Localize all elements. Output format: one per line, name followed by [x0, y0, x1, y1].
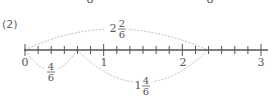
top-fragment-1: 8 [87, 0, 94, 6]
denominator: 6 [48, 72, 54, 83]
tick-label-0: 0 [22, 56, 29, 69]
top-fragment-2: 8 [207, 0, 214, 6]
label-top-fraction: 2 2 6 [106, 18, 128, 40]
numerator: 4 [48, 61, 54, 72]
numerator: 4 [143, 75, 149, 86]
numerator: 2 [119, 18, 125, 29]
problem-label: (2) [2, 18, 18, 31]
tick-label-2: 2 [180, 56, 187, 69]
label-bottom-large-fraction: 1 4 6 [133, 75, 153, 97]
number-line-figure: 8 8 (2) 0 1 2 3 2 2 6 4 6 1 4 6 [0, 0, 272, 104]
whole: 2 [110, 22, 117, 35]
tick-label-1: 1 [101, 56, 108, 69]
tick-label-3: 3 [258, 56, 265, 69]
label-bottom-small-fraction: 4 6 [45, 61, 57, 83]
denominator: 6 [119, 29, 125, 40]
whole: 1 [135, 79, 142, 92]
denominator: 6 [143, 86, 149, 97]
